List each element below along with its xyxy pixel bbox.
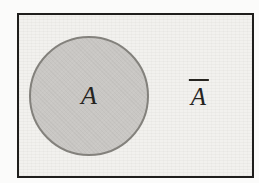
complement-a-letter: A bbox=[189, 79, 209, 109]
complement-a-label: A bbox=[189, 79, 209, 109]
set-a-label: A bbox=[81, 83, 97, 109]
figure-canvas: A A bbox=[0, 0, 259, 183]
